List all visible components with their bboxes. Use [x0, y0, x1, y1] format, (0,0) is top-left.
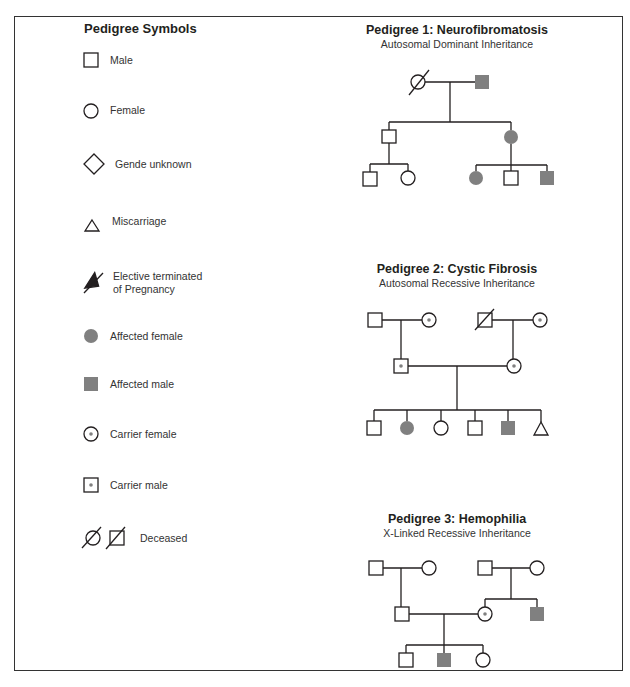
legend-label-carrier-male: Carrier male: [110, 480, 168, 491]
p1-affected-male: [475, 75, 489, 89]
male-square-icon: [84, 53, 98, 67]
p2-male: [368, 313, 382, 327]
miscarriage-triangle-icon: [85, 220, 99, 231]
p3-female: [422, 561, 436, 575]
legend-symbols: [82, 53, 125, 549]
pedigree-3-chart: [369, 561, 544, 667]
p2-male-child-2: [468, 421, 482, 435]
p3-female-2: [530, 561, 544, 575]
legend-label-male: Male: [110, 55, 133, 66]
pedigree-2-chart: [367, 309, 548, 435]
p3-male-child: [399, 653, 413, 667]
p1-male-child-2: [504, 171, 518, 185]
p2-miscarriage: [534, 422, 548, 435]
legend-label-gender-unknown: Gende unknown: [115, 159, 191, 170]
affected-female-icon: [84, 329, 98, 343]
p1-male-child: [363, 172, 377, 186]
p2-female-child: [434, 421, 448, 435]
deceased-male-icon: [106, 527, 125, 549]
pedigree-3-title: Pedigree 3: Hemophilia: [337, 513, 577, 526]
pedigree-2-subtitle: Autosomal Recessive Inheritance: [337, 278, 577, 289]
carrier-male-icon: [84, 478, 98, 492]
legend-label-miscarriage: Miscarriage: [112, 216, 166, 227]
legend-label-elective-line2: of Pregnancy: [113, 284, 175, 295]
p2-carrier-female: [422, 313, 436, 327]
p1-male: [382, 130, 396, 143]
elective-termination-icon: [83, 272, 103, 293]
p3-carrier-female: [478, 607, 492, 621]
p1-affected-male-child: [540, 171, 554, 185]
p1-female-child: [401, 171, 415, 185]
affected-male-icon: [84, 377, 98, 391]
p2-affected-male-child: [501, 421, 515, 435]
legend-title: Pedigree Symbols: [84, 22, 197, 35]
p3-male-gen2: [395, 607, 409, 621]
p2-carrier-female-3: [507, 359, 521, 373]
p1-affected-female: [504, 130, 518, 144]
p2-affected-female-child: [400, 421, 414, 435]
carrier-female-icon: [84, 427, 98, 441]
gender-unknown-diamond-icon: [84, 154, 104, 174]
p2-carrier-female-2: [533, 313, 547, 327]
p1-affected-female-child: [469, 171, 483, 185]
p3-male: [369, 561, 383, 575]
p3-male-2: [478, 561, 492, 575]
legend-label-affected-male: Affected male: [110, 379, 174, 390]
legend-label-female: Female: [110, 105, 145, 116]
legend-label-deceased: Deceased: [140, 533, 187, 544]
pedigree-2-title: Pedigree 2: Cystic Fibrosis: [337, 263, 577, 276]
p3-affected-male: [530, 607, 544, 621]
pedigree-1-subtitle: Autosomal Dominant Inheritance: [337, 39, 577, 50]
female-circle-icon: [84, 104, 98, 118]
p2-male-child: [367, 421, 381, 435]
legend-label-affected-female: Affected female: [110, 331, 183, 342]
p3-affected-male-child: [437, 653, 451, 667]
pedigree-1-chart: [363, 70, 554, 186]
p2-deceased-male: [475, 309, 494, 330]
pedigree-3-subtitle: X-Linked Recessive Inheritance: [337, 528, 577, 539]
legend-label-elective-line1: Elective terminated: [113, 271, 202, 282]
p2-carrier-male: [394, 359, 408, 373]
p3-female-child: [476, 653, 490, 667]
legend-label-carrier-female: Carrier female: [110, 429, 177, 440]
pedigree-artwork: [0, 0, 630, 687]
deceased-female-icon: [82, 527, 101, 548]
pedigree-1-title: Pedigree 1: Neurofibromatosis: [337, 24, 577, 37]
